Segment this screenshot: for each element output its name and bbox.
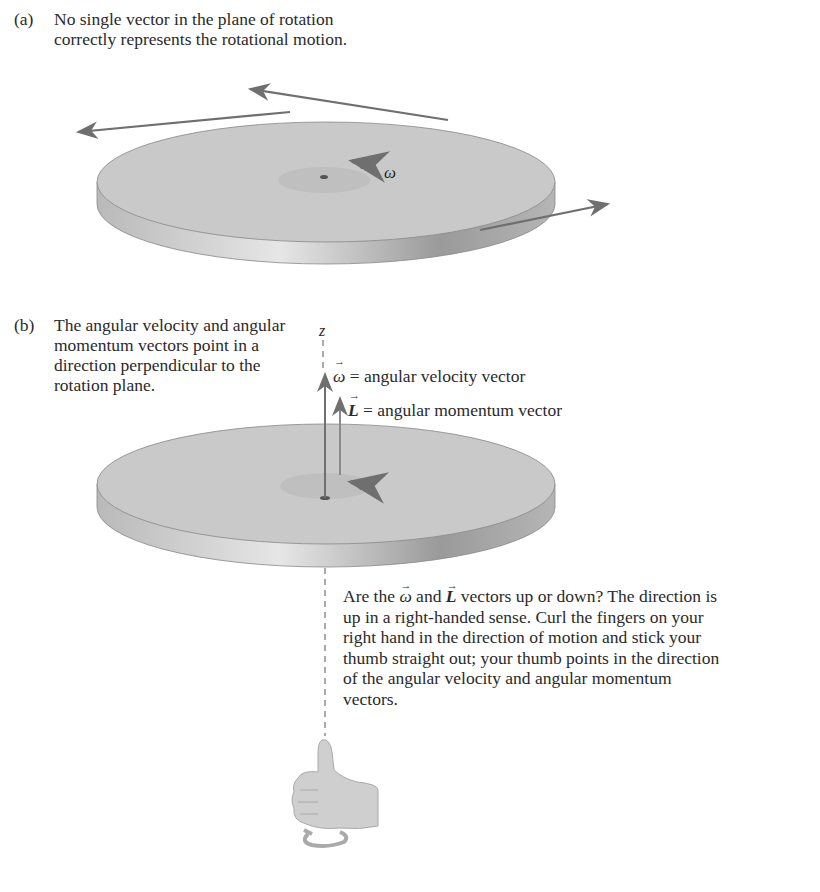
diagram-canvas [0,0,820,892]
caption-a: (a) No single vector in the plane of rot… [54,9,394,49]
caption-b: (b) The angular velocity and angular mom… [54,315,294,395]
L-symbol: L [348,400,359,421]
note-prefix: Are the [343,586,395,606]
omega-symbol: ω [333,366,345,387]
note-omega-symbol: ω [399,586,411,607]
note-and: and [416,586,441,606]
note-L-symbol: L [446,586,457,607]
right-hand-rule-note: Are the ω and L vectors up or down? The … [343,586,723,710]
omega-vector-label: ω = angular velocity vector [333,366,525,387]
panel-b-tag: (b) [14,315,34,335]
panel-b-caption: The angular velocity and angular momentu… [54,315,285,395]
omega-desc: = angular velocity vector [350,366,526,386]
L-desc: = angular momentum vector [363,400,562,420]
right-hand-icon [292,740,378,846]
L-vector-label: L = angular momentum vector [348,400,562,421]
omega-label-a: ω [384,163,396,183]
panel-a-tag: (a) [14,9,33,29]
z-axis-label: z [319,322,325,340]
vector-arrow-1 [250,89,448,120]
disk-a [97,122,555,264]
panel-a-caption: No single vector in the plane of rotatio… [54,9,347,49]
